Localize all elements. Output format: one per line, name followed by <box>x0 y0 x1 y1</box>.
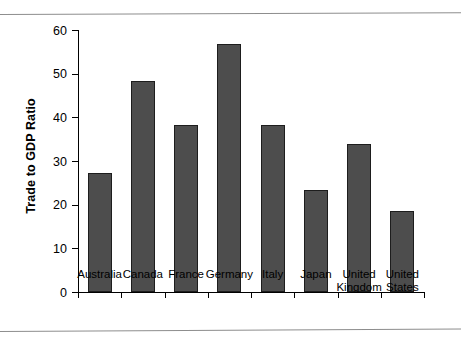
y-tick-label-30: 30 <box>53 155 67 168</box>
x-tick-3 <box>208 292 209 298</box>
plot-area: 0102030405060 <box>78 30 424 292</box>
y-axis-line <box>78 30 79 292</box>
bar-italy <box>261 125 285 292</box>
x-tick-5 <box>294 292 295 298</box>
y-tick-50: 50 <box>72 74 78 75</box>
y-tick-60: 60 <box>72 30 78 31</box>
x-tick-2 <box>165 292 166 298</box>
x-tick-4 <box>251 292 252 298</box>
chart-figure: Trade to GDP Ratio 0102030405060 Austral… <box>0 0 461 347</box>
y-tick-label-20: 20 <box>53 199 67 212</box>
y-tick-30: 30 <box>72 161 78 162</box>
y-tick-label-50: 50 <box>53 68 67 81</box>
bottom-divider-rule <box>0 329 461 332</box>
y-axis-title: Trade to GDP Ratio <box>22 86 40 226</box>
y-tick-label-40: 40 <box>53 112 67 125</box>
bar-germany <box>217 44 241 292</box>
y-tick-20: 20 <box>72 205 78 206</box>
x-tick-0 <box>78 292 79 298</box>
y-tick-label-10: 10 <box>53 243 67 256</box>
y-tick-label-0: 0 <box>60 286 67 299</box>
bar-canada <box>131 81 155 292</box>
top-divider-rule <box>0 12 461 15</box>
y-tick-40: 40 <box>72 117 78 118</box>
y-tick-10: 10 <box>72 248 78 249</box>
bar-france <box>174 125 198 292</box>
y-axis-title-text: Trade to GDP Ratio <box>24 98 38 213</box>
y-tick-label-60: 60 <box>53 24 67 37</box>
x-axis-label-united-states: United States <box>375 268 430 293</box>
x-tick-1 <box>121 292 122 298</box>
